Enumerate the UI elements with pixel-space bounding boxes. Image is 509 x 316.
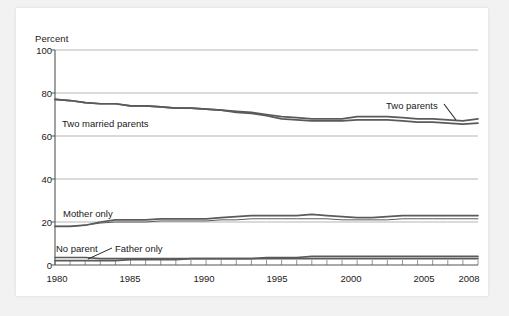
chart-figure: Percent 100 80 60 40 20 0 1980 1985 1990… [0,0,509,316]
gridlines-group [55,50,478,222]
plot-canvas [0,0,509,316]
series-line-two-parents [55,99,478,121]
major-ticks-group [51,50,55,265]
series-line-two-married-parents [55,99,478,124]
leader-line-two-parents [444,104,456,120]
series-line-mother-only [55,214,478,226]
leader-line-no-parent [88,248,112,259]
series-lines-group [55,99,478,260]
